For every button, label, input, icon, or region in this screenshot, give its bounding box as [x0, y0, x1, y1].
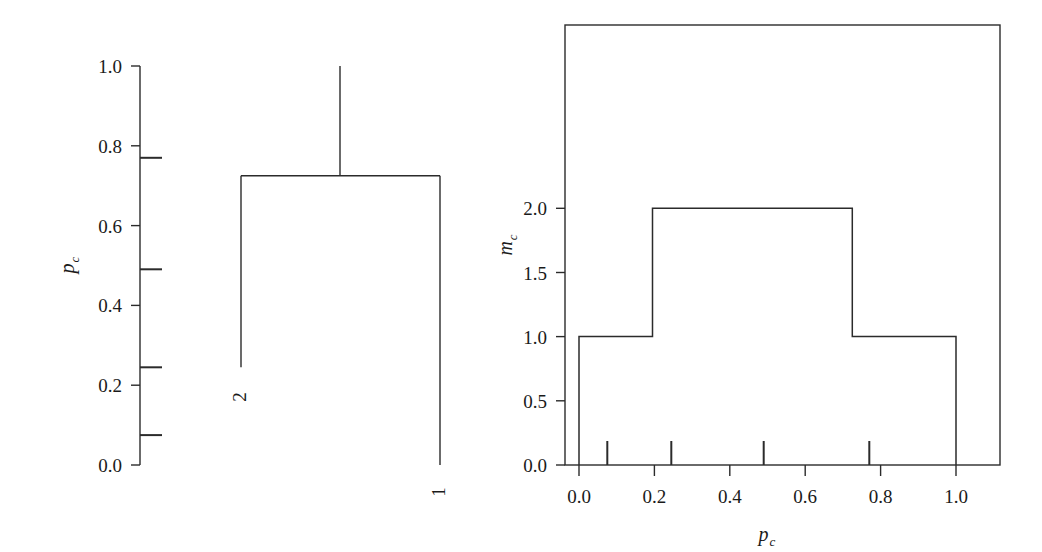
x-axis-tick-labels: 0.0 0.2 0.4 0.6 0.8 1.0 [567, 486, 968, 507]
x-tick-label: 0.6 [793, 486, 817, 507]
x-tick-label: 0.2 [643, 486, 667, 507]
x-axis-major-ticks [579, 465, 956, 476]
panel-dendrogram: 1.0 0.8 0.6 0.4 0.2 0.0 pc [0, 0, 500, 552]
x-tick-label: 0.4 [718, 486, 742, 507]
y-axis-title-sub: c [67, 256, 82, 262]
y-tick-label: 2.0 [523, 198, 547, 219]
y-tick-label: 1.0 [523, 327, 547, 348]
x-axis-title-main: p [757, 523, 769, 546]
y-axis-title: pc [56, 256, 82, 275]
step-profile-curve [579, 208, 956, 465]
panel-step-profile: 0.0 0.5 1.0 1.5 2.0 mc [490, 0, 1042, 552]
svg-text:2: 2 [229, 392, 250, 402]
svg-text:mc: mc [494, 234, 520, 255]
figure-canvas: 1.0 0.8 0.6 0.4 0.2 0.0 pc [0, 0, 1042, 552]
y-tick-label: 0.5 [523, 391, 547, 412]
y-tick-label: 0.6 [98, 216, 122, 237]
y-tick-label: 0.0 [98, 455, 122, 476]
x-axis-title: pc [757, 523, 776, 549]
y-axis-title-main: m [494, 241, 516, 255]
y-axis-tick-labels: 1.0 0.8 0.6 0.4 0.2 0.0 [98, 56, 122, 476]
y-axis-tick-labels: 0.0 0.5 1.0 1.5 2.0 [523, 198, 547, 476]
dendrogram-leaf-label-1: 1 [428, 487, 449, 497]
y-axis-event-ticks [140, 158, 162, 435]
svg-text:1: 1 [428, 487, 449, 497]
y-tick-label: 1.0 [98, 56, 122, 77]
dendrogram-tree [241, 66, 440, 465]
step-profile-svg: 0.0 0.5 1.0 1.5 2.0 mc [490, 0, 1042, 552]
x-tick-label: 0.0 [567, 486, 591, 507]
y-axis-title-main: p [56, 263, 79, 275]
x-tick-label: 1.0 [944, 486, 968, 507]
svg-text:pc: pc [56, 256, 82, 275]
y-axis-major-ticks [131, 66, 140, 465]
y-tick-label: 0.4 [98, 295, 122, 316]
x-axis-event-ticks [607, 441, 869, 465]
dendrogram-leaf-label-2: 2 [229, 392, 250, 402]
plot-frame [565, 25, 1000, 465]
y-axis-title-sub: c [505, 234, 520, 240]
y-tick-label: 1.5 [523, 263, 547, 284]
y-axis-major-ticks [556, 208, 565, 465]
dendrogram-svg: 1.0 0.8 0.6 0.4 0.2 0.0 pc [0, 0, 500, 552]
x-tick-label: 0.8 [869, 486, 893, 507]
y-tick-label: 0.0 [523, 455, 547, 476]
y-axis-title: mc [494, 234, 520, 255]
y-tick-label: 0.2 [98, 375, 122, 396]
x-axis-title-sub: c [770, 534, 776, 549]
y-tick-label: 0.8 [98, 136, 122, 157]
